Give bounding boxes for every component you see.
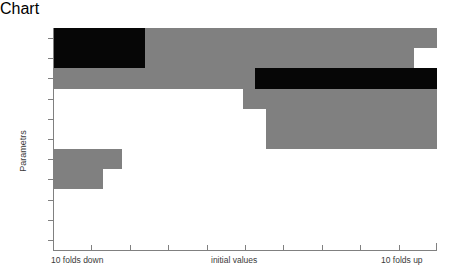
bar-segment-black-kB	[53, 28, 145, 48]
bar-segment-grey-kmB	[243, 89, 437, 109]
x-tick-mark-0	[245, 245, 246, 251]
x-axis-right-end-tick	[436, 243, 437, 251]
x-tick-mark--2	[207, 245, 208, 251]
bar-row-kmI	[53, 189, 437, 209]
bar-row-k1	[53, 68, 437, 88]
x-axis-label-left: 10 folds down	[51, 255, 103, 265]
bar-segment-black-km1	[53, 48, 145, 68]
plot-area	[53, 28, 437, 250]
x-tick-mark-8	[399, 245, 400, 251]
x-tick-mark--8	[91, 245, 92, 251]
y-axis-line	[53, 28, 54, 250]
x-axis-label-center: initial values	[211, 255, 257, 265]
x-tick-mark-2	[283, 245, 284, 251]
bar-row-I	[53, 129, 437, 149]
bar-segment-grey-kI	[266, 109, 437, 129]
bar-segment-grey-kA	[53, 149, 122, 169]
x-axis-label-right: 10 folds up	[381, 255, 423, 265]
bar-row-km1	[53, 48, 437, 68]
bar-row-km2	[53, 210, 437, 230]
bar-segment-grey-I	[266, 129, 437, 149]
y-axis-title: Parametrs	[18, 130, 28, 172]
bar-row-kA	[53, 149, 437, 169]
bar-row-kI	[53, 109, 437, 129]
x-tick-mark-4	[322, 245, 323, 251]
bar-row-kB	[53, 28, 437, 48]
sensitivity-chart-figure: Parametrs kBkm1k1kmBkIIkAk2kmIkm2kmA 10 …	[0, 18, 470, 265]
bar-row-k2	[53, 169, 437, 189]
x-tick-mark--4	[168, 245, 169, 251]
bar-row-kmB	[53, 89, 437, 109]
x-tick-mark-6	[360, 245, 361, 251]
bar-segment-black-k1	[255, 68, 437, 88]
bar-segment-grey-k2	[53, 169, 103, 189]
x-tick-mark--10	[53, 245, 54, 251]
x-tick-mark--6	[130, 245, 131, 251]
